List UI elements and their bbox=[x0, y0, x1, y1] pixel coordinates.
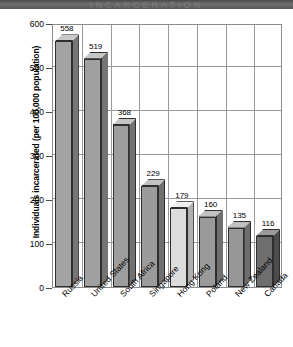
gridline-vertical bbox=[254, 25, 255, 287]
gridline-vertical bbox=[111, 25, 112, 287]
bar-value-label: 160 bbox=[194, 200, 228, 209]
bar-value-label: 229 bbox=[136, 169, 170, 178]
gridline-vertical bbox=[168, 25, 169, 287]
bar-side-face bbox=[72, 34, 79, 287]
gridline-vertical bbox=[139, 25, 140, 287]
chart-page: INCARCERATION Individuals incarcerated (… bbox=[0, 0, 293, 347]
bar-value-label: 368 bbox=[107, 108, 141, 117]
y-axis-tick-label: 500 bbox=[0, 63, 44, 73]
bar-new-zealand[interactable]: 135 bbox=[228, 221, 245, 287]
gridline-vertical bbox=[82, 25, 83, 287]
header-band: INCARCERATION bbox=[0, 0, 293, 9]
y-axis-tick-label: 600 bbox=[0, 19, 44, 29]
bar-chart-figure: Individuals incarcerated (per 100,000 po… bbox=[0, 9, 293, 347]
plot-area: 558519368229179160135116 bbox=[52, 24, 282, 288]
gridline-vertical bbox=[197, 25, 198, 287]
bar-united-states[interactable]: 519 bbox=[84, 52, 101, 287]
bar-side-face bbox=[101, 52, 108, 287]
bar-value-label: 116 bbox=[251, 219, 285, 228]
bar-value-label: 519 bbox=[79, 42, 113, 51]
gridline-vertical bbox=[226, 25, 227, 287]
bar-value-label: 558 bbox=[50, 24, 84, 33]
y-axis-tick-label: 300 bbox=[0, 151, 44, 161]
y-axis-tick bbox=[46, 288, 52, 289]
bar-front-face bbox=[55, 41, 72, 287]
bar-front-face bbox=[84, 59, 101, 287]
bar-russia[interactable]: 558 bbox=[55, 34, 72, 287]
header-band-text: INCARCERATION bbox=[90, 0, 203, 9]
y-axis-tick-label: 0 bbox=[0, 283, 44, 293]
bar-front-face bbox=[228, 228, 245, 287]
y-axis-tick-label: 400 bbox=[0, 107, 44, 117]
y-axis-tick-label: 100 bbox=[0, 239, 44, 249]
y-axis-tick-label: 200 bbox=[0, 195, 44, 205]
